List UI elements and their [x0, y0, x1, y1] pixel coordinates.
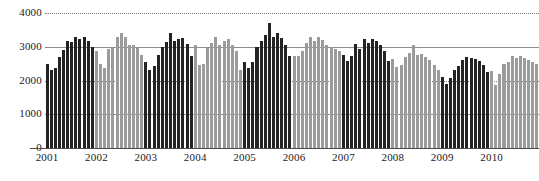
- bar: [198, 65, 201, 148]
- bar: [474, 59, 477, 148]
- bar: [437, 70, 440, 148]
- bar: [107, 49, 110, 148]
- bar: [470, 58, 473, 148]
- bar: [83, 37, 86, 148]
- bar: [46, 64, 49, 148]
- bar: [321, 40, 324, 148]
- bar: [309, 37, 312, 148]
- bar: [74, 37, 77, 148]
- bar: [190, 56, 193, 148]
- bar: [103, 68, 106, 148]
- bar: [194, 45, 197, 148]
- bar: [428, 60, 431, 148]
- x-tick-label-2008: 2008: [378, 152, 408, 163]
- bar: [358, 49, 361, 148]
- bar: [260, 41, 263, 148]
- bar: [243, 62, 246, 148]
- bar: [363, 39, 366, 148]
- bar: [136, 48, 139, 148]
- bar: [465, 57, 468, 148]
- bar: [445, 84, 448, 148]
- bar: [227, 39, 230, 148]
- bar: [408, 53, 411, 148]
- bar: [169, 33, 172, 148]
- bar: [284, 45, 287, 148]
- bar: [338, 51, 341, 148]
- bar: [301, 51, 304, 148]
- y-tick-label: 4000: [2, 7, 42, 18]
- y-tick-label: 2000: [2, 75, 42, 86]
- bar-chart: 01000200030004000 2001200220032004200520…: [0, 0, 539, 181]
- bar: [334, 49, 337, 148]
- bar: [507, 62, 510, 148]
- bar: [375, 41, 378, 148]
- bar: [223, 41, 226, 148]
- bar: [66, 41, 69, 148]
- bar: [288, 56, 291, 148]
- bar: [449, 78, 452, 148]
- bar: [239, 70, 242, 148]
- bars-layer: [45, 13, 539, 148]
- bar: [498, 74, 501, 148]
- bar: [412, 45, 415, 148]
- bar: [116, 37, 119, 148]
- bar: [350, 56, 353, 148]
- bar: [173, 41, 176, 148]
- x-tick-label-2005: 2005: [230, 152, 260, 163]
- bar: [95, 51, 98, 148]
- bar: [132, 45, 135, 148]
- bar: [255, 47, 258, 148]
- x-tick-label-2006: 2006: [279, 152, 309, 163]
- x-axis-line: [30, 148, 539, 149]
- bar: [535, 64, 538, 148]
- bar: [293, 56, 296, 148]
- bar: [165, 42, 168, 148]
- bar: [519, 56, 522, 148]
- x-tick-label-2010: 2010: [477, 152, 507, 163]
- bar: [251, 62, 254, 148]
- bar: [181, 38, 184, 148]
- bar: [379, 45, 382, 148]
- bar: [400, 65, 403, 148]
- bar: [342, 55, 345, 148]
- bar: [87, 41, 90, 148]
- y-tick-label: 1000: [2, 108, 42, 119]
- bar: [330, 47, 333, 148]
- bar: [157, 55, 160, 148]
- bar: [420, 54, 423, 148]
- bar: [502, 64, 505, 148]
- bar: [99, 64, 102, 148]
- bar: [371, 39, 374, 148]
- bar: [482, 65, 485, 148]
- bar: [202, 64, 205, 148]
- bar: [268, 23, 271, 148]
- bar: [78, 39, 81, 148]
- bar: [276, 33, 279, 148]
- bar: [486, 72, 489, 148]
- bar: [527, 60, 530, 148]
- bar: [395, 67, 398, 148]
- bar: [515, 58, 518, 148]
- bar: [531, 62, 534, 148]
- bar: [433, 65, 436, 148]
- x-tick-label-2001: 2001: [32, 152, 62, 163]
- bar: [305, 43, 308, 148]
- bar: [416, 55, 419, 148]
- bar: [404, 57, 407, 148]
- bar: [461, 60, 464, 148]
- bar: [210, 43, 213, 148]
- x-tick-label-2004: 2004: [180, 152, 210, 163]
- bar: [313, 41, 316, 148]
- bar: [387, 61, 390, 148]
- bar: [153, 66, 156, 148]
- bar: [186, 44, 189, 148]
- bar: [523, 58, 526, 148]
- bar: [214, 37, 217, 148]
- bar: [441, 77, 444, 148]
- bar: [424, 57, 427, 148]
- x-tick-label-2007: 2007: [328, 152, 358, 163]
- bar: [297, 56, 300, 148]
- bar: [231, 45, 234, 148]
- bar: [367, 43, 370, 148]
- bar: [124, 37, 127, 148]
